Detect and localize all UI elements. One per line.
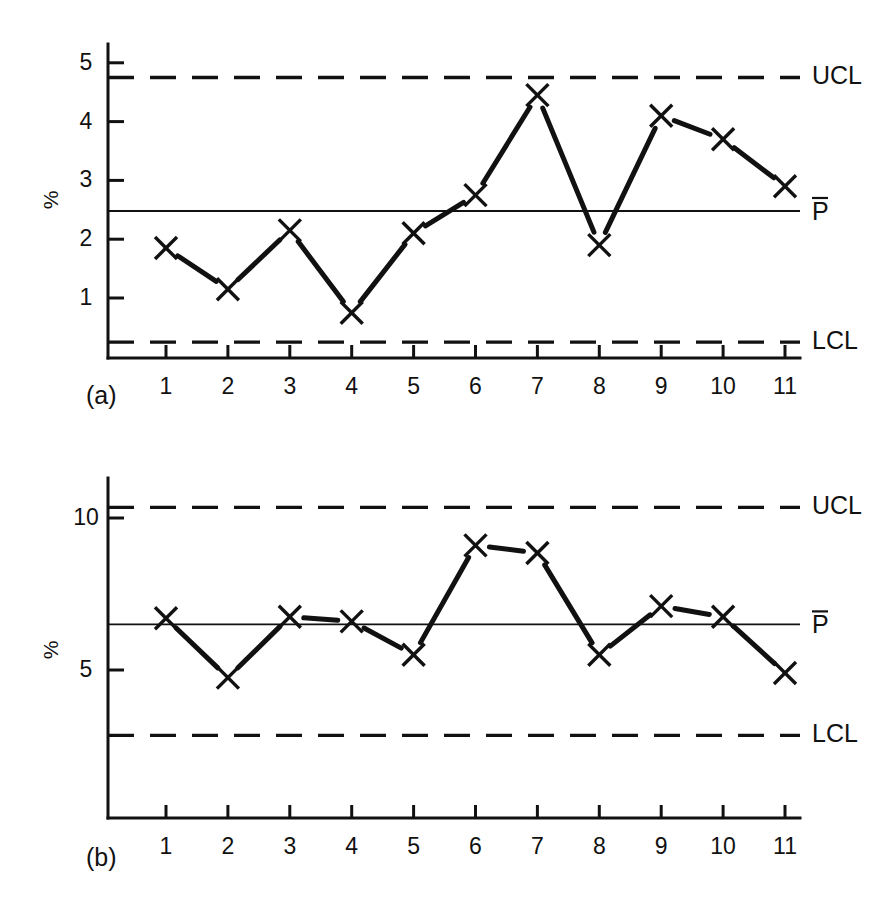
data-point-marker — [341, 610, 363, 632]
x-axis-tick-label: 3 — [283, 833, 296, 859]
x-axis-tick-label: 3 — [283, 373, 296, 399]
data-point-marker — [465, 184, 487, 206]
x-axis-tick-label: 7 — [531, 833, 544, 859]
x-axis-tick-label: 6 — [469, 373, 482, 399]
x-axis-tick-label: 7 — [531, 373, 544, 399]
series-segment — [238, 627, 280, 668]
data-point-marker — [588, 644, 610, 666]
series-segment — [489, 547, 523, 551]
center-line-label: P — [812, 197, 829, 225]
lcl-label: LCL — [812, 326, 858, 354]
series-segment — [304, 618, 338, 621]
data-point-marker — [465, 534, 487, 556]
center-line-label-text: P — [812, 610, 829, 638]
y-axis-tick-label: 4 — [80, 108, 93, 134]
series-segment — [674, 121, 710, 135]
x-axis-tick-label: 2 — [222, 373, 235, 399]
y-axis-tick-label: 3 — [80, 166, 93, 192]
series-segment — [238, 240, 280, 280]
chart-b-axes — [108, 478, 800, 818]
y-axis-tick-label: 1 — [80, 284, 93, 310]
series-segment — [364, 628, 401, 648]
series-segment — [176, 628, 218, 668]
data-point-marker — [712, 128, 734, 150]
x-axis-tick-label: 11 — [773, 833, 797, 859]
data-point-marker — [217, 667, 239, 689]
x-axis-tick-label: 9 — [655, 373, 668, 399]
data-point-marker — [155, 607, 177, 629]
x-axis-tick-label: 4 — [345, 373, 358, 399]
y-axis-tick-label: 5 — [80, 49, 93, 75]
control-chart-figure: 123451234567891011UCLLCLP%(a) 5101234567… — [0, 0, 883, 903]
data-point-marker — [774, 662, 796, 684]
x-axis-tick-label: 6 — [469, 833, 482, 859]
center-line-label-text: P — [812, 197, 829, 225]
y-axis-tick-label: 10 — [73, 504, 99, 530]
series-segment — [543, 108, 594, 232]
x-axis-tick-label: 5 — [407, 833, 420, 859]
series-segment — [360, 244, 405, 301]
data-point-marker — [155, 237, 177, 259]
x-axis-tick-label: 8 — [593, 373, 606, 399]
series-segment — [545, 565, 592, 643]
lcl-label: LCL — [812, 719, 858, 747]
ucl-label: UCL — [812, 491, 862, 519]
y-axis-tick-label: 2 — [80, 225, 93, 251]
x-axis-tick-label: 1 — [160, 833, 173, 859]
series-segment — [420, 558, 468, 643]
series-segment — [178, 256, 217, 282]
series-segment — [734, 148, 774, 178]
center-line-label: P — [812, 610, 829, 638]
x-axis-tick-label: 11 — [773, 373, 797, 399]
y-axis-title: % — [39, 191, 62, 210]
series-segment — [426, 202, 464, 226]
chart-b-labels: 5101234567891011UCLLCLP%(b) — [39, 491, 862, 871]
ucl-label: UCL — [812, 61, 862, 89]
series-segment — [733, 626, 774, 663]
data-point-marker — [650, 105, 672, 127]
data-point-marker — [588, 234, 610, 256]
chart-a-data-series — [155, 84, 796, 324]
panel-label: (a) — [86, 381, 117, 409]
series-segment — [483, 107, 530, 183]
series-segment — [610, 615, 650, 646]
data-point-marker — [403, 222, 425, 244]
data-point-marker — [526, 542, 548, 564]
x-axis-tick-label: 4 — [345, 833, 358, 859]
series-segment — [605, 128, 655, 232]
x-axis-tick-label: 9 — [655, 833, 668, 859]
data-point-marker — [217, 278, 239, 300]
x-axis-tick-label: 2 — [222, 833, 235, 859]
chart-a-labels: 123451234567891011UCLLCLP%(a) — [39, 49, 862, 409]
x-axis-tick-label: 8 — [593, 833, 606, 859]
x-axis-tick-label: 1 — [160, 373, 173, 399]
x-axis-tick-label: 10 — [710, 833, 736, 859]
chart-b-data-series — [155, 534, 796, 688]
x-axis-tick-label: 10 — [710, 373, 736, 399]
data-point-marker — [403, 644, 425, 666]
data-point-marker — [650, 595, 672, 617]
chart-b-svg: 5101234567891011UCLLCLP%(b) — [0, 450, 883, 903]
y-axis-tick-label: 5 — [80, 656, 93, 682]
x-axis-tick-label: 5 — [407, 373, 420, 399]
data-point-marker — [279, 219, 301, 241]
p-chart-panel-a: 123451234567891011UCLLCLP%(a) — [0, 0, 883, 450]
data-point-marker — [526, 84, 548, 106]
chart-a-axes — [108, 44, 800, 358]
chart-a-svg: 123451234567891011UCLLCLP%(a) — [0, 0, 883, 450]
p-chart-panel-b: 5101234567891011UCLLCLP%(b) — [0, 450, 883, 903]
data-point-marker — [774, 175, 796, 197]
data-point-marker — [341, 302, 363, 324]
chart-b-control-limits — [108, 507, 800, 735]
panel-label: (b) — [86, 843, 117, 871]
series-segment — [675, 609, 709, 615]
series-segment — [298, 242, 343, 302]
y-axis-title: % — [39, 641, 62, 660]
